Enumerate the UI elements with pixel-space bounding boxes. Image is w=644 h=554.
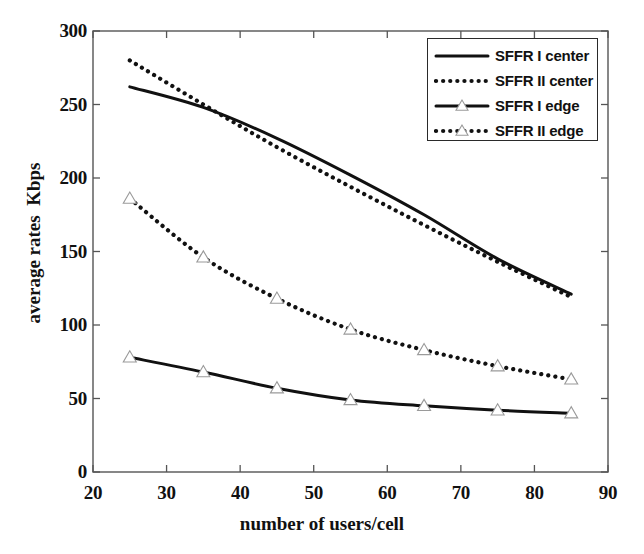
legend-item-2: SFFR I edge xyxy=(428,93,597,118)
legend: SFFR I center SFFR II center SFFR I edge… xyxy=(427,38,598,141)
data-point-marker xyxy=(270,292,283,303)
legend-swatch-0 xyxy=(434,47,490,65)
legend-swatch-3 xyxy=(434,122,490,140)
data-point-marker xyxy=(123,192,136,203)
legend-label-1: SFFR II center xyxy=(495,72,593,89)
series-sffr-i-edge xyxy=(123,351,577,418)
legend-item-3: SFFR II edge xyxy=(428,118,597,143)
y-tick-label-250: 250 xyxy=(31,94,87,116)
legend-label-2: SFFR I edge xyxy=(495,97,579,114)
chart-figure: average rates Kbps number of users/cell … xyxy=(0,0,644,554)
y-tick-label-150: 150 xyxy=(31,241,87,263)
y-tick-label-50: 50 xyxy=(31,388,87,410)
x-tick-label-30: 30 xyxy=(157,482,175,504)
data-point-marker xyxy=(565,373,578,384)
x-tick-label-40: 40 xyxy=(231,482,249,504)
y-tick-label-300: 300 xyxy=(31,20,87,42)
x-axis-title: number of users/cell xyxy=(0,513,644,535)
data-point-marker xyxy=(418,343,431,354)
x-tick-label-80: 80 xyxy=(525,482,543,504)
x-tick-label-20: 20 xyxy=(84,482,102,504)
legend-swatch-1 xyxy=(434,72,490,90)
legend-label-0: SFFR I center xyxy=(495,47,589,64)
x-tick-label-70: 70 xyxy=(452,482,470,504)
data-point-marker xyxy=(123,351,136,362)
x-tick-label-90: 90 xyxy=(599,482,617,504)
x-tick-label-60: 60 xyxy=(378,482,396,504)
legend-swatch-2 xyxy=(434,97,490,115)
legend-label-3: SFFR II edge xyxy=(495,122,583,139)
y-tick-label-100: 100 xyxy=(31,314,87,336)
data-point-marker xyxy=(197,251,210,262)
y-tick-label-0: 0 xyxy=(31,461,87,483)
series-sffr-ii-edge xyxy=(123,192,577,384)
legend-item-1: SFFR II center xyxy=(428,68,597,93)
x-tick-label-50: 50 xyxy=(305,482,323,504)
y-tick-label-200: 200 xyxy=(31,167,87,189)
legend-item-0: SFFR I center xyxy=(428,43,597,68)
